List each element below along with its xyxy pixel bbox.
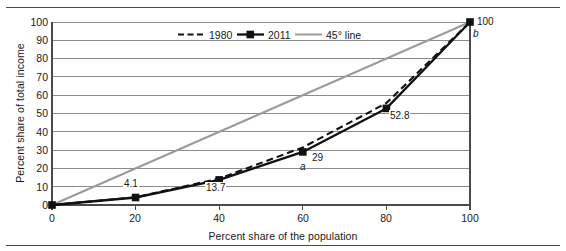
annotation-b: b — [473, 28, 479, 39]
data-label-52-8: 52.8 — [389, 110, 410, 121]
legend-label-1980: 1980 — [209, 29, 232, 41]
y-axis-title: Percent share of total income — [14, 18, 26, 208]
x-tick-100: 100 — [455, 212, 485, 224]
data-label-29: 29 — [311, 152, 324, 163]
legend-glyphs — [178, 31, 322, 39]
annotation-a: a — [300, 161, 306, 172]
x-axis-title: Percent share of the population — [0, 230, 566, 242]
x-tick-80: 80 — [371, 212, 401, 224]
lorenz-curve-figure: 100 90 80 70 60 50 40 30 20 10 0 0 20 40… — [0, 0, 566, 251]
data-label-100: 100 — [476, 16, 495, 27]
legend-label-45-degree: 45° line — [326, 29, 361, 41]
legend-swatch-2011-marker — [247, 31, 255, 39]
legend-label-2011: 2011 — [268, 29, 291, 41]
x-tick-60: 60 — [288, 212, 318, 224]
x-tick-20: 20 — [120, 212, 150, 224]
x-tick-marks — [52, 205, 470, 210]
data-label-4-1: 4.1 — [123, 178, 139, 189]
data-label-13-7: 13.7 — [205, 182, 226, 193]
x-tick-40: 40 — [204, 212, 234, 224]
x-tick-0: 0 — [37, 212, 67, 224]
